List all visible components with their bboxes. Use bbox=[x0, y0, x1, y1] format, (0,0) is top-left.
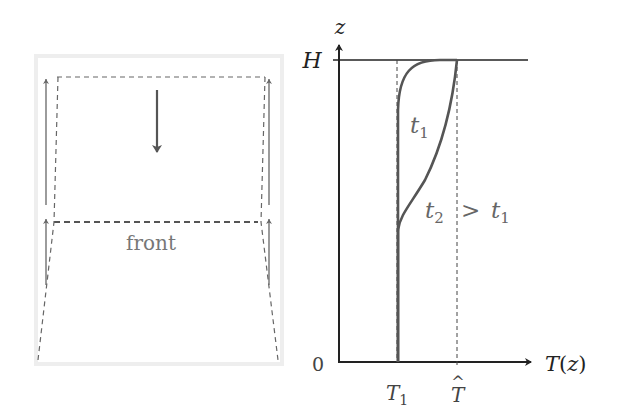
front-label: front bbox=[126, 231, 176, 255]
left-panel: front bbox=[36, 56, 282, 364]
h-label: H bbox=[301, 48, 322, 73]
left-side-dashed bbox=[38, 77, 58, 360]
that-hat: ^ bbox=[451, 373, 464, 392]
panel-border bbox=[36, 56, 282, 364]
t1b-curve-label: t1 bbox=[491, 197, 510, 227]
right-panel: z H 0 T(z) t1 t2 > t1 T1 T ^ bbox=[301, 15, 586, 408]
gt-label: > bbox=[461, 197, 480, 223]
origin-label: 0 bbox=[312, 353, 324, 375]
y-axis-label: z bbox=[334, 15, 346, 39]
t1-tick-label: T1 bbox=[386, 381, 408, 408]
diagram-canvas: front z H 0 T(z) t1 t2 > t1 T1 T ^ bbox=[0, 0, 618, 419]
x-axis-label: T(z) bbox=[545, 352, 587, 376]
t2-curve-label: t2 bbox=[425, 197, 444, 227]
t1-curve-label: t1 bbox=[410, 112, 429, 142]
